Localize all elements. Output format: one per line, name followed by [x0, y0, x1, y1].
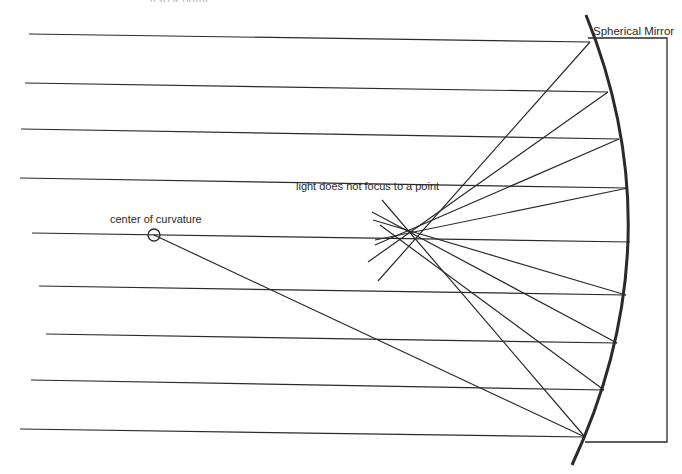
incoming-parallel-rays [20, 34, 630, 437]
incoming-ray [29, 34, 590, 42]
spherical-aberration-diagram: ...g to a point Spherical Mirror center … [0, 0, 682, 474]
incoming-ray [21, 129, 619, 139]
center-of-curvature-label: center of curvature [110, 213, 202, 225]
reflected-ray [378, 42, 590, 281]
reflected-ray [154, 235, 585, 437]
reflected-rays [154, 42, 628, 437]
cut-off-caption: ...g to a point [140, 0, 260, 2]
incoming-ray [39, 286, 626, 295]
reflected-ray [375, 139, 619, 245]
incoming-ray [46, 334, 617, 343]
reflected-ray [373, 220, 626, 295]
aberration-label: light does not focus to a point [296, 180, 439, 192]
incoming-ray [25, 83, 608, 92]
incoming-ray [20, 429, 585, 437]
mirror-label: Spherical Mirror [593, 25, 674, 37]
mirror-label-bracket [585, 38, 667, 442]
reflected-ray [380, 225, 604, 390]
incoming-ray [32, 233, 630, 242]
reflected-ray [368, 92, 608, 262]
reflected-ray [382, 200, 585, 437]
spherical-mirror-arc [572, 15, 628, 465]
incoming-ray [31, 380, 604, 390]
